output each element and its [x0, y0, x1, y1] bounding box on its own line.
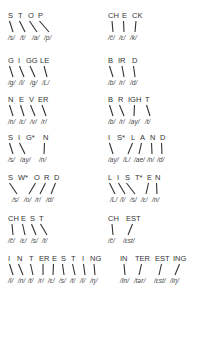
grapheme: L	[131, 133, 135, 142]
connector-line	[51, 183, 56, 194]
phoneme: /a/	[31, 34, 40, 41]
connector-line	[10, 21, 14, 32]
grapheme: R	[118, 95, 124, 104]
phoneme: /s/	[129, 196, 138, 203]
phoneme: /L/	[41, 79, 50, 86]
phoneme: /r/	[34, 196, 42, 203]
connector-line	[135, 21, 136, 32]
phoneme: /ɛst/	[153, 277, 167, 284]
connector-line	[110, 105, 114, 116]
connector-line	[162, 143, 163, 154]
phoneme: /ae/	[133, 156, 146, 163]
phoneme: /g/	[29, 79, 38, 87]
connector-line	[30, 66, 35, 77]
connector-line	[110, 183, 116, 194]
grapheme: D	[160, 133, 166, 142]
phoneme: /n/	[38, 156, 47, 163]
grapheme: N	[17, 254, 22, 263]
connector-line	[10, 143, 14, 154]
connector-line	[110, 66, 114, 77]
grapheme: E	[147, 173, 152, 182]
grapheme: V	[29, 95, 34, 104]
word-entry: NEVER/n//ɛ//v//r/	[8, 94, 108, 130]
connector-line	[159, 264, 162, 275]
connector-line	[20, 21, 26, 32]
connector-line	[122, 66, 124, 77]
connector-line	[112, 21, 113, 32]
grapheme: I	[117, 173, 119, 182]
grapheme: G	[8, 56, 14, 65]
connector-line	[23, 224, 26, 235]
phoneme: /I/	[18, 79, 26, 86]
phoneme: /t/	[144, 118, 152, 125]
phoneme: /I/	[79, 277, 87, 284]
connector-line	[139, 264, 142, 275]
phoneme: /ɛst/	[122, 237, 136, 244]
phoneme: /ɛ/	[118, 34, 127, 41]
phoneme: /v/	[29, 118, 38, 125]
connector-line	[32, 224, 37, 235]
connector-line	[19, 264, 24, 275]
grapheme: I	[82, 254, 84, 263]
connector-line	[53, 264, 54, 275]
phoneme: /ay/	[107, 156, 120, 164]
phoneme: /o/	[23, 196, 32, 203]
connector-line	[10, 66, 14, 77]
connector-line	[124, 21, 125, 32]
grapheme: N	[155, 173, 160, 182]
connector-line	[94, 264, 95, 275]
connector-line	[29, 183, 36, 194]
connector-line	[20, 143, 26, 154]
grapheme: A	[140, 133, 145, 142]
grapheme: N	[150, 133, 155, 142]
grapheme: S	[8, 11, 13, 20]
grapheme: S	[125, 173, 130, 182]
connector-line	[63, 264, 65, 275]
grapheme: S	[61, 254, 66, 263]
grapheme: LE	[40, 56, 49, 65]
grapheme: T	[145, 95, 150, 104]
word-entry: GIGGLE/g//I//g//L/	[8, 55, 108, 91]
phoneme: /s/	[7, 34, 16, 41]
grapheme: IGH	[128, 95, 141, 104]
grapheme: S*	[117, 133, 125, 142]
phoneme: /d/	[129, 79, 138, 86]
connector-line	[175, 264, 180, 275]
word-entry: LIST*EN/L//I//s//ɛ//n/	[108, 172, 208, 208]
phoneme: /t/	[69, 277, 77, 284]
phoneme: /In/	[119, 277, 130, 284]
phoneme: /L/	[122, 156, 131, 163]
phoneme: /g/	[7, 79, 16, 87]
phoneme: /r/	[118, 118, 126, 125]
grapheme: N	[8, 95, 13, 104]
word-entry: CHECK/č//ɛ//k/	[108, 10, 208, 46]
grapheme: E	[21, 214, 26, 223]
grapheme: T*	[135, 173, 143, 182]
grapheme: N	[43, 133, 48, 142]
phoneme: /r/	[40, 118, 48, 125]
connector-line	[30, 21, 38, 32]
phoneme: /Iŋ/	[169, 277, 180, 285]
grapheme: ER	[38, 95, 49, 104]
phoneme: /p/	[43, 34, 52, 42]
connector-line	[12, 224, 13, 235]
grapheme: I	[18, 133, 20, 142]
phoneme: /I/	[7, 277, 15, 284]
phoneme: /n/	[151, 196, 160, 203]
grapheme: L	[108, 173, 112, 182]
connector-line	[112, 224, 113, 235]
connector-line	[73, 264, 76, 275]
connector-line	[31, 105, 36, 116]
word-entry: IS*LAND/ay//L//ae//n//d/	[108, 132, 208, 168]
connector-line	[134, 105, 135, 116]
grapheme: EST	[155, 254, 170, 263]
phoneme: /ay/	[19, 156, 32, 164]
phoneme: /t/	[27, 277, 35, 284]
grapheme: T	[18, 11, 23, 20]
word-entry: INTERESTING/I//n//t//r//ɛ//s//t//I//ŋ/	[8, 253, 108, 289]
connector-line	[128, 143, 133, 154]
grapheme: IN	[120, 254, 128, 263]
connector-line	[147, 105, 151, 116]
grapheme: IR	[118, 56, 126, 65]
word-entry: CHEST/č//ɛ//s//t/	[8, 213, 108, 249]
